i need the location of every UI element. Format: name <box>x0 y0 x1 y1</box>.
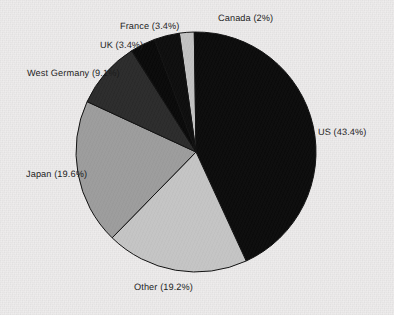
pie-label-us: US (43.4%) <box>318 127 367 138</box>
chart-page: US (43.4%) Other (19.2%) Japan (19.6%) W… <box>0 0 394 315</box>
pie-chart <box>0 0 394 315</box>
pie-label-japan: Japan (19.6%) <box>26 169 87 180</box>
pie-label-other: Other (19.2%) <box>134 282 193 293</box>
pie-label-west-germany: West Germany (9.1%) <box>27 68 120 79</box>
pie-label-uk: UK (3.4%) <box>100 40 143 51</box>
pie-label-france: France (3.4%) <box>120 21 180 32</box>
pie-label-canada: Canada (2%) <box>218 13 273 24</box>
